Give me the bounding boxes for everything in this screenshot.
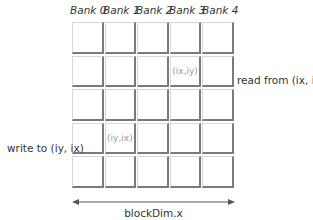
grid-cell: (ix,iy) [170, 56, 202, 88]
read-label: read from (ix, iy) [237, 74, 313, 86]
shared-memory-grid: (ix,iy)(iy,ix) [72, 22, 235, 190]
grid-cell [137, 123, 169, 155]
bank-label-1: Bank 1 [103, 4, 137, 16]
block-dim-label: blockDim.x [72, 207, 235, 219]
grid-cell [202, 123, 234, 155]
grid-cell [72, 89, 104, 121]
bank-label-3: Bank 3 [169, 4, 203, 16]
write-label: write to (iy, ix) [7, 142, 84, 154]
grid-cell [202, 89, 234, 121]
grid-cell [202, 156, 234, 188]
grid-cell [72, 156, 104, 188]
grid-cell [170, 89, 202, 121]
cell-label: (ix,iy) [172, 66, 198, 76]
bank-labels: Bank 0 Bank 1 Bank 2 Bank 3 Bank 4 [70, 4, 240, 18]
grid-cell [202, 22, 234, 54]
grid-cell [105, 56, 137, 88]
grid-cell [170, 156, 202, 188]
bank-label-4: Bank 4 [202, 4, 236, 16]
grid-cell [137, 156, 169, 188]
grid-cell [170, 123, 202, 155]
grid-cell [72, 56, 104, 88]
grid-cell [72, 22, 104, 54]
bank-label-2: Bank 2 [136, 4, 170, 16]
double-arrow-icon [72, 197, 235, 207]
cell-label: (iy,ix) [107, 133, 133, 143]
grid-cell [202, 56, 234, 88]
grid-cell [170, 22, 202, 54]
grid-cell [105, 89, 137, 121]
grid-cell: (iy,ix) [105, 123, 137, 155]
grid-cell [137, 89, 169, 121]
bank-label-0: Bank 0 [70, 4, 104, 16]
grid-cell [137, 22, 169, 54]
grid-cell [137, 56, 169, 88]
grid-cell [105, 156, 137, 188]
grid-cell [105, 22, 137, 54]
